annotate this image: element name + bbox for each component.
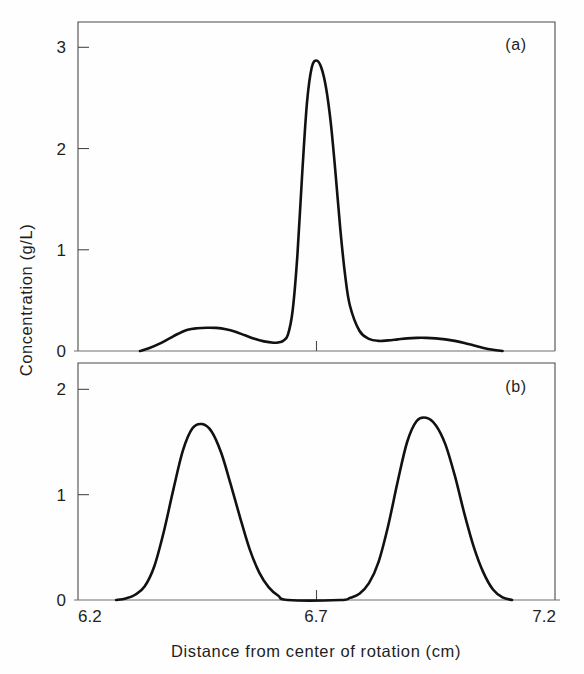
panel-a: (a) 0123 xyxy=(57,22,555,361)
figure-container: (a) 0123 (b) 012 6.2 6.7 7.2 Distance fr… xyxy=(0,0,584,674)
panel-b-ytick-labels: 012 xyxy=(57,380,66,610)
y-tick-label: 1 xyxy=(57,486,66,505)
panel-b: (b) 012 xyxy=(57,363,560,610)
panel-b-label: (b) xyxy=(505,378,526,395)
panel-a-ytick-labels: 0123 xyxy=(57,38,66,361)
panel-b-curve xyxy=(116,417,512,600)
panel-b-yticks xyxy=(78,389,89,494)
x-tick-label-right: 7.2 xyxy=(532,607,556,626)
x-axis-title: Distance from center of rotation (cm) xyxy=(171,642,461,660)
scientific-figure: (a) 0123 (b) 012 6.2 6.7 7.2 Distance fr… xyxy=(0,0,584,674)
y-tick-label: 0 xyxy=(57,342,66,361)
y-tick-label: 0 xyxy=(57,591,66,610)
y-tick-label: 3 xyxy=(57,38,66,57)
x-tick-label-center: 6.7 xyxy=(304,607,328,626)
panel-a-curve xyxy=(140,60,503,351)
y-tick-label: 2 xyxy=(57,140,66,159)
y-tick-label: 1 xyxy=(57,241,66,260)
x-tick-label-left: 6.2 xyxy=(78,607,102,626)
y-tick-label: 2 xyxy=(57,380,66,399)
x-axis-tick-labels: 6.2 6.7 7.2 xyxy=(78,607,556,626)
panel-a-yticks xyxy=(78,47,89,249)
y-axis-title: Concentration (g/L) xyxy=(17,224,35,377)
panel-a-frame xyxy=(78,22,555,351)
panel-b-frame xyxy=(78,363,555,600)
panel-a-label: (a) xyxy=(505,36,526,53)
